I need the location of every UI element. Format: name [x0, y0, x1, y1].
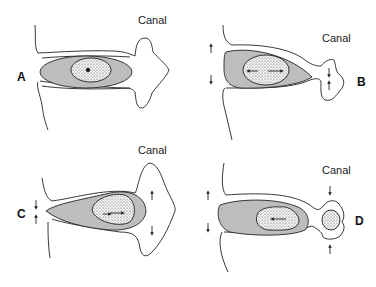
panel-a — [35, 25, 169, 130]
panel-letter-a: A — [17, 70, 26, 84]
stippled-nucleus — [256, 207, 299, 230]
diagram-canvas — [0, 0, 376, 287]
panel-c — [36, 163, 175, 258]
center-dot — [86, 68, 90, 72]
stippled-nucleus — [243, 55, 289, 85]
canal-label-c: Canal — [138, 144, 167, 156]
panel-letter-c: C — [17, 207, 26, 221]
stippled-detached-nucleus — [322, 210, 340, 230]
canal-label-b: Canal — [322, 32, 351, 44]
panel-letter-b: B — [357, 75, 366, 89]
stippled-nucleus — [71, 58, 111, 82]
canal-label-d: Canal — [322, 164, 351, 176]
canal-label-a: Canal — [138, 14, 167, 26]
panel-d — [208, 163, 344, 272]
panel-letter-d: D — [355, 214, 364, 228]
